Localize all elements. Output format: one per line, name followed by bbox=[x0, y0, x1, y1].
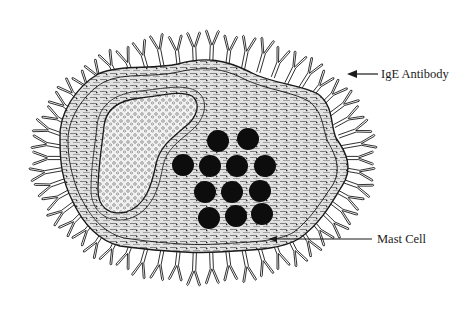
mast-cell-diagram: IgE Antibody Mast Cell bbox=[0, 0, 474, 310]
ige-antibody bbox=[224, 249, 238, 281]
ige-antibody bbox=[341, 134, 377, 148]
ige-antibody bbox=[150, 33, 165, 69]
ige-antibody bbox=[187, 251, 201, 286]
granule bbox=[226, 155, 248, 177]
ige-antibody bbox=[241, 247, 256, 283]
granule bbox=[237, 128, 259, 150]
granule bbox=[251, 203, 273, 225]
ige-antibody bbox=[205, 251, 219, 284]
ige-antibody bbox=[271, 46, 290, 78]
granule bbox=[198, 207, 220, 229]
diagram-canvas bbox=[0, 0, 474, 310]
mast-cell-label: Mast Cell bbox=[377, 233, 426, 246]
ige-antibody bbox=[168, 249, 182, 281]
ige-antibody bbox=[33, 151, 64, 165]
granule bbox=[194, 181, 216, 203]
ige-antibody-pointer bbox=[347, 70, 378, 78]
ige-antibody bbox=[224, 35, 238, 67]
granule bbox=[172, 154, 194, 176]
ige-antibody bbox=[257, 37, 275, 73]
granule bbox=[225, 205, 247, 227]
granule bbox=[199, 155, 221, 177]
granule bbox=[254, 155, 276, 177]
granule bbox=[221, 181, 243, 203]
ige-antibody bbox=[241, 35, 256, 69]
granule bbox=[207, 130, 229, 152]
ige-antibody bbox=[150, 247, 165, 281]
granule bbox=[249, 180, 271, 202]
ige-antibody bbox=[168, 35, 182, 67]
ige-antibody-label: IgE Antibody bbox=[381, 68, 449, 81]
ige-antibody bbox=[29, 167, 65, 181]
